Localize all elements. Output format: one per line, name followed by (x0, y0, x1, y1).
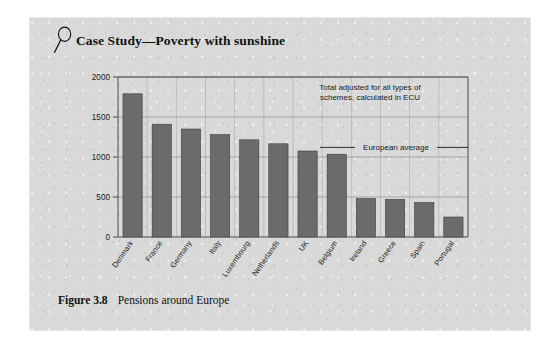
x-label-greece: Greece (376, 239, 398, 265)
y-tick-label-0: 0 (105, 233, 110, 242)
x-label-spain: Spain (408, 239, 427, 260)
bar-spain (415, 203, 434, 237)
y-tick-label-2000: 2000 (92, 73, 111, 82)
case-study-panel: Case Study—Poverty with sunshine Europea… (30, 18, 530, 330)
y-tick-label-1000: 1000 (92, 153, 111, 162)
bar-ireland (356, 199, 375, 237)
total-adjusted-note: Total adjusted for all types ofschemes, … (319, 83, 421, 102)
figure-caption-text: Pensions around Europe (118, 294, 230, 306)
bar-chart-figure: European average Total adjusted for all … (30, 18, 530, 330)
x-label-netherlands: Netherlands (250, 239, 281, 278)
chart-plot-area: European average Total adjusted for all … (70, 73, 490, 283)
y-axis: 0500100015002000 (92, 73, 118, 242)
figure-caption-number: Figure 3.8 (58, 294, 108, 306)
x-label-portugal: Portugal (432, 239, 456, 268)
bar-netherlands (269, 144, 288, 237)
x-label-belgium: Belgium (316, 239, 339, 267)
bar-luxembourg (240, 140, 259, 237)
x-label-ireland: Ireland (348, 239, 369, 263)
total-adjusted-note-line-2: schemes, calculated in ECU (320, 93, 420, 102)
bar-italy (210, 135, 229, 237)
bar-germany (181, 129, 200, 237)
european-average-label: European average (363, 143, 429, 152)
bar-belgium (327, 154, 346, 237)
bar-denmark (123, 94, 142, 237)
figure-caption: Figure 3.8Pensions around Europe (58, 290, 229, 308)
x-axis-category-labels: DenmarkFranceGermanyItalyLuxembourgNethe… (110, 239, 456, 279)
x-label-denmark: Denmark (110, 239, 135, 270)
y-tick-label-500: 500 (96, 193, 110, 202)
x-label-italy: Italy (207, 239, 222, 256)
x-label-germany: Germany (168, 239, 193, 270)
european-average-annotation: European average (320, 143, 468, 152)
bar-portugal (444, 217, 463, 237)
x-label-uk: UK (297, 239, 310, 253)
bar-france (152, 124, 171, 237)
x-label-france: France (143, 239, 164, 264)
y-tick-label-1500: 1500 (92, 113, 111, 122)
x-label-luxembourg: Luxembourg (220, 239, 252, 279)
bar-uk (298, 151, 317, 237)
bar-greece (385, 199, 404, 237)
total-adjusted-note-line-1: Total adjusted for all types of (319, 83, 421, 92)
